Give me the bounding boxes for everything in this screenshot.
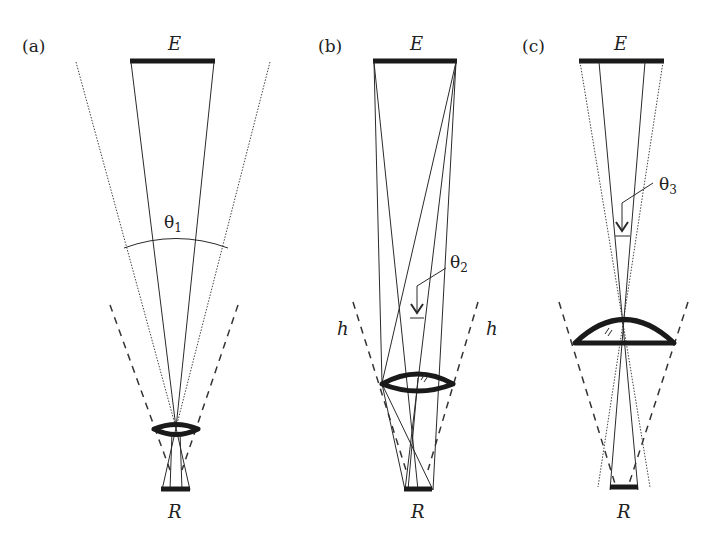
panel-b: (b) E θ2 h h R: [318, 33, 498, 522]
panel-b-emitter-label: E: [409, 33, 423, 54]
panel-a-receiver-label: R: [167, 501, 182, 522]
panel-b-label: (b): [318, 36, 342, 56]
panel-c-theta-label: θ3: [659, 174, 677, 197]
panel-b-exit-ray-1: [382, 384, 405, 490]
panel-b-ray-cross-3: [405, 62, 456, 490]
panel-a-angle-arc: [124, 239, 228, 249]
panel-a-dash-left: [110, 305, 170, 470]
panel-a-field-line-left: [76, 62, 176, 428]
panel-a-field-line-right: [176, 62, 270, 428]
panel-b-receiver-label: R: [410, 501, 425, 522]
panel-c-label: (c): [522, 36, 545, 56]
panel-b-ray-edge-right: [433, 62, 456, 490]
panel-a-dash-right: [182, 305, 238, 470]
panel-a-exit-ray-1: [162, 428, 176, 490]
panel-c-ray-left: [599, 62, 638, 490]
panel-a-ray-right: [176, 62, 214, 428]
optics-figure: (a) E θ1 R (b) E: [0, 0, 710, 538]
panel-a-exit-ray-2: [176, 428, 190, 490]
panel-c-lens-hatch: [605, 328, 612, 336]
panel-a-emitter-label: E: [167, 33, 181, 54]
panel-b-ray-edge-left: [374, 62, 382, 383]
panel-b-exit-ray-2: [382, 384, 433, 490]
panel-b-h-right: h: [486, 318, 498, 339]
panel-c-receiver-label: R: [616, 501, 631, 522]
panel-a-ray-left: [131, 62, 176, 428]
panel-c-emitter-label: E: [613, 33, 627, 54]
panel-c: (c) E θ3 R: [522, 33, 688, 522]
panel-a-exit-ray-4: [180, 432, 182, 490]
panel-b-theta-label: θ2: [450, 252, 468, 275]
panel-b-h-left: h: [337, 318, 349, 339]
panel-b-ray-cross-2: [382, 62, 456, 383]
panel-b-dash-left: [353, 302, 406, 470]
panel-a: (a) E θ1 R: [22, 33, 270, 522]
panel-a-exit-ray-3: [170, 432, 172, 490]
panel-a-theta-label: θ1: [164, 212, 182, 235]
panel-b-ray-cross-1: [374, 62, 418, 490]
panel-c-field-line-right: [598, 62, 663, 487]
panel-a-label: (a): [22, 36, 45, 56]
